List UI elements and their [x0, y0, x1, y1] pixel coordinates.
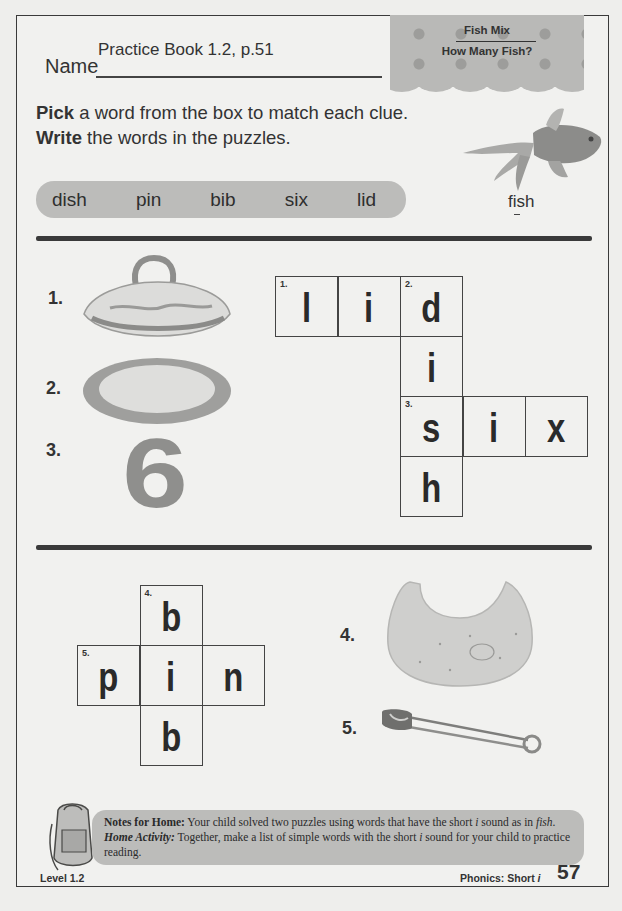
level-label: Level 1.2 — [40, 872, 84, 884]
bib-image — [380, 574, 540, 689]
section-divider-top — [36, 236, 592, 241]
svg-text:6: 6 — [122, 428, 188, 528]
name-underline — [96, 76, 382, 78]
cell-letter: i — [364, 288, 373, 328]
clue-number-2: 2. — [46, 378, 61, 399]
puzzle-cell[interactable]: x — [525, 396, 588, 457]
cell-letter: b — [161, 717, 181, 757]
number-six-image: 6 — [115, 428, 195, 528]
cell-letter: b — [161, 597, 181, 637]
puzzle-cell[interactable]: h — [400, 456, 463, 517]
word-bank: dish pin bib six lid — [36, 181, 406, 218]
cell-clue-number: 5. — [82, 648, 90, 658]
cell-letter: d — [421, 288, 441, 328]
banner-subtitle: How Many Fish? — [390, 45, 584, 57]
puzzle-cell[interactable]: b — [140, 705, 203, 766]
goldfish-image — [438, 103, 613, 193]
cell-clue-number: 2. — [405, 279, 413, 289]
word-bank-item: six — [285, 189, 308, 211]
clue-number-4: 4. — [340, 625, 355, 646]
phonics-topic: Phonics: Short i — [460, 872, 541, 884]
puzzle-cell[interactable]: 4.b — [140, 585, 203, 646]
backpack-icon — [48, 800, 96, 872]
banner-title: Fish Mix — [390, 24, 584, 36]
puzzle-cell[interactable]: 5.p — [77, 645, 140, 706]
cell-letter: p — [98, 657, 118, 697]
puzzle-cell[interactable]: 2.d — [400, 276, 463, 337]
puzzle-cell[interactable]: n — [202, 645, 265, 706]
cell-letter: i — [489, 408, 498, 448]
dish-plate-image — [80, 355, 235, 427]
puzzle-cell[interactable]: 3.s — [400, 396, 463, 457]
cell-letter: s — [422, 408, 440, 448]
name-label: Name — [45, 55, 98, 78]
short-i-underline — [514, 214, 520, 215]
clue-number-5: 5. — [342, 718, 357, 739]
covered-dish-lid-image — [80, 252, 235, 342]
word-bank-item: pin — [136, 189, 161, 211]
instruction-line-1: Pick a word from the box to match each c… — [36, 102, 408, 124]
puzzle-cell[interactable]: i — [463, 396, 526, 457]
cell-clue-number: 4. — [145, 588, 153, 598]
puzzle-cell[interactable]: i — [140, 645, 203, 706]
instruction-verb-pick: Pick — [36, 102, 74, 123]
cell-letter: i — [166, 657, 175, 697]
word-bank-item: bib — [210, 189, 235, 211]
word-bank-item: lid — [357, 189, 376, 211]
puzzle-cell[interactable]: i — [338, 276, 401, 337]
safety-pin-image — [378, 706, 548, 756]
name-field-value[interactable]: Practice Book 1.2, p.51 — [98, 40, 274, 60]
notes-for-home: Notes for Home: Your child solved two pu… — [92, 810, 584, 865]
puzzle-cell[interactable]: 1.l — [275, 276, 338, 337]
cell-letter: l — [302, 288, 311, 328]
clue-number-1: 1. — [48, 288, 63, 309]
banner-divider — [456, 41, 536, 42]
example-word-fish: fish — [508, 192, 534, 212]
word-bank-item: dish — [52, 189, 87, 211]
cell-clue-number: 1. — [280, 279, 288, 289]
page-number: 57 — [557, 860, 580, 884]
clue-number-3: 3. — [46, 440, 61, 461]
cell-letter: i — [427, 348, 436, 388]
puzzle-cell[interactable]: i — [400, 336, 463, 397]
cell-letter: x — [547, 408, 565, 448]
instruction-line-2: Write the words in the puzzles. — [36, 127, 291, 149]
instruction-verb-write: Write — [36, 127, 82, 148]
cell-letter: n — [223, 657, 243, 697]
section-divider-middle — [36, 545, 592, 550]
cell-letter: h — [421, 468, 441, 508]
banner-scallop-edge — [390, 84, 584, 94]
cell-clue-number: 3. — [405, 399, 413, 409]
